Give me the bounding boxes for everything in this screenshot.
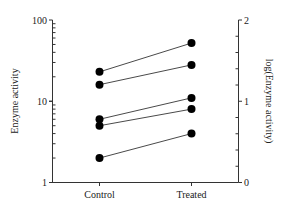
y-axis-title-right: log(Enzyme activity) [263,59,275,144]
data-point [96,122,104,130]
series-5 [96,130,196,162]
right-tick-label-0: 0 [244,177,249,188]
data-point [188,105,196,113]
connector-line [100,134,192,158]
y-axis-title-left: Enzyme activity [9,68,20,133]
data-series [96,39,196,162]
left-tick-label-1: 1 [42,177,47,188]
data-point [188,94,196,102]
series-2 [96,61,196,89]
x-ticks [100,183,192,187]
data-point [188,39,196,47]
data-point [96,81,104,89]
data-point [188,61,196,69]
axes [52,20,239,183]
right-tick-label-2: 2 [244,15,249,26]
x-tick-label-treated: Treated [176,189,206,200]
connector-line [100,109,192,126]
connector-line [100,98,192,119]
data-point [96,154,104,162]
left-tick-label-100: 100 [32,15,47,26]
left-tick-label-10: 10 [37,96,47,107]
data-point [188,130,196,138]
x-tick-label-control: Control [84,189,115,200]
right-tick-label-1: 1 [244,96,249,107]
paired-log-chart: 100 10 1 2 1 0 Control Treated Enzyme ac… [0,0,288,213]
series-3 [96,94,196,123]
data-point [96,68,104,76]
series-1 [96,39,196,76]
